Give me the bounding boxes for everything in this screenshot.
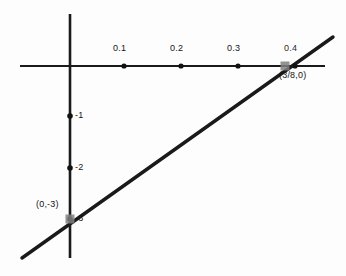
x-tick-dot-0.4 <box>292 63 297 68</box>
x-tick-label-2: 0.2 <box>170 44 183 53</box>
x-tick-dot-0.1 <box>121 63 126 68</box>
marker-y-intercept <box>66 215 75 224</box>
y-tick-label-1: -1 <box>75 111 83 120</box>
x-tick-label-3: 0.3 <box>227 44 240 53</box>
coordinate-plane-svg <box>0 0 346 276</box>
y-tick-label-3: -3 <box>75 214 83 223</box>
y-tick-label-2: -2 <box>75 163 83 172</box>
y-tick-dot--2 <box>67 165 73 171</box>
annotation-y-intercept: (0,-3) <box>36 200 59 209</box>
x-tick-label-4: 0.4 <box>284 44 297 53</box>
x-tick-label-1: 0.1 <box>113 44 126 53</box>
annotation-x-intercept: (3/8,0) <box>279 71 306 80</box>
y-tick-dot--1 <box>67 113 73 119</box>
x-tick-dot-0.2 <box>178 63 183 68</box>
graph-figure: 0.1 0.2 0.3 0.4 -1 -2 -3 (0,-3) (3/8,0) <box>0 0 346 276</box>
x-tick-dot-0.3 <box>235 63 240 68</box>
